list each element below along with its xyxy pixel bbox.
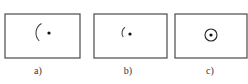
- panel-a-dot: [47, 31, 50, 34]
- panel-a-frame: [5, 14, 80, 58]
- panel-a-arc: [36, 23, 42, 40]
- panel-a-label: a): [34, 66, 42, 76]
- panel-b-label: b): [124, 66, 132, 76]
- panel-b: [94, 14, 167, 58]
- panel-c-label: c): [206, 66, 214, 76]
- panel-a: [5, 14, 80, 58]
- figure: a) b) c): [0, 0, 248, 84]
- panel-c: [175, 14, 247, 58]
- panel-c-dot: [209, 33, 212, 36]
- panel-b-dot: [128, 32, 131, 35]
- panel-b-frame: [94, 14, 167, 58]
- panel-b-arc: [122, 27, 125, 37]
